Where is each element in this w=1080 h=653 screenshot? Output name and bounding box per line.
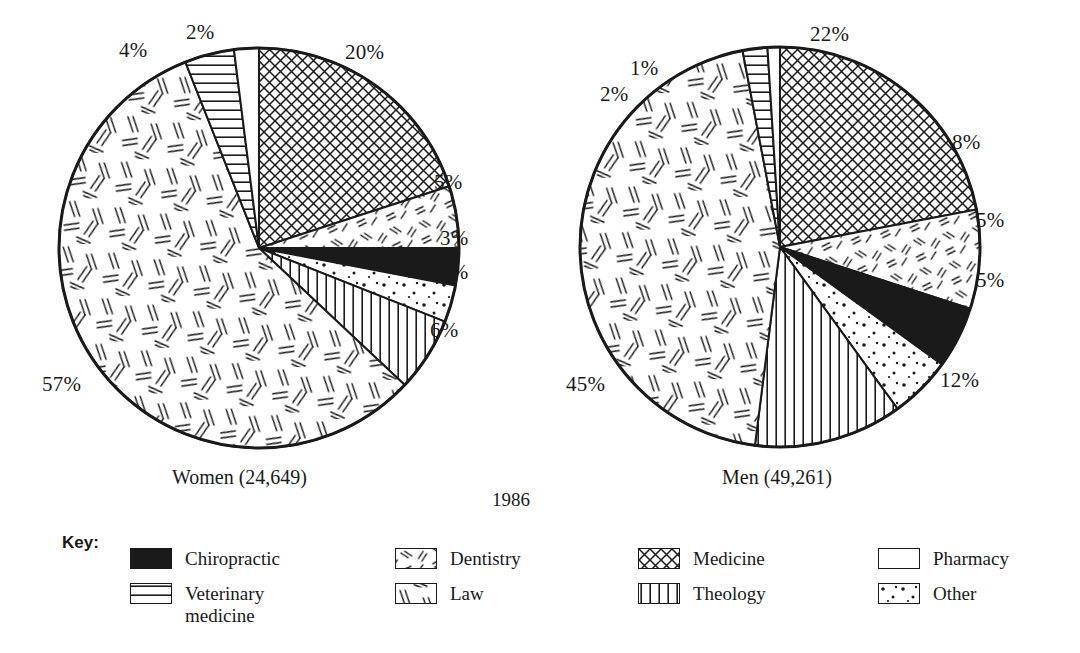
legend-item-chiropractic[interactable]: Chiropractic [130, 548, 280, 570]
pct-label-pharmacy: 1% [630, 56, 658, 81]
legend-swatch-solid [130, 548, 172, 569]
legend-label: Law [450, 583, 484, 605]
legend-swatch-horizontal [130, 583, 172, 604]
legend-swatch-slashes [395, 583, 437, 604]
pie-chart-women [59, 48, 459, 448]
chart-caption-men: Men (49,261) [722, 466, 832, 489]
legend-label: Other [933, 583, 976, 605]
legend-label: Dentistry [450, 548, 521, 570]
legend-swatch-dashes [395, 548, 437, 569]
legend-item-law[interactable]: Law [395, 583, 484, 605]
legend-item-other[interactable]: Other [878, 583, 976, 605]
legend-item-veterinary-medicine[interactable]: Veterinary medicine [130, 583, 264, 627]
legend-label: Chiropractic [185, 548, 280, 570]
legend-label: Veterinary medicine [185, 583, 264, 627]
legend-swatch-vertical [638, 583, 680, 604]
pct-label-pharmacy: 2% [186, 20, 214, 45]
pct-label-dentistry: 5% [434, 170, 462, 195]
pct-label-veterinary-medicine: 4% [119, 38, 147, 63]
pct-label-dentistry: 8% [952, 130, 980, 155]
legend-item-dentistry[interactable]: Dentistry [395, 548, 521, 570]
year-label: 1986 [492, 489, 530, 511]
chart-caption-women: Women (24,649) [172, 466, 307, 489]
pct-label-law: 57% [42, 372, 81, 397]
pct-label-veterinary-medicine: 2% [600, 82, 628, 107]
legend: ChiropracticVeterinary medicineDentistry… [0, 548, 1080, 648]
legend-label: Medicine [693, 548, 765, 570]
pie-chart-men [580, 47, 980, 447]
legend-swatch-crosshatch [638, 548, 680, 569]
legend-item-pharmacy[interactable]: Pharmacy [878, 548, 1009, 570]
pct-label-law: 45% [566, 372, 605, 397]
chart-canvas: 20%5%3%3%6%57%4%2%22%8%5%5%12%45%2%1% Wo… [0, 0, 1080, 653]
pct-label-other: 5% [976, 268, 1004, 293]
pct-label-theology: 12% [940, 368, 979, 393]
pct-label-theology: 6% [430, 318, 458, 343]
legend-item-theology[interactable]: Theology [638, 583, 766, 605]
pct-label-chiropractic: 3% [440, 226, 468, 251]
legend-label: Theology [693, 583, 766, 605]
legend-item-medicine[interactable]: Medicine [638, 548, 765, 570]
legend-swatch-blank [878, 548, 920, 569]
pie-charts-svg [0, 0, 1080, 500]
pie-slice-law[interactable] [580, 51, 780, 446]
pct-label-medicine: 22% [810, 22, 849, 47]
pct-label-medicine: 20% [345, 40, 384, 65]
pct-label-chiropractic: 5% [976, 208, 1004, 233]
pct-label-other: 3% [440, 260, 468, 285]
legend-swatch-dots [878, 583, 920, 604]
legend-label: Pharmacy [933, 548, 1009, 570]
